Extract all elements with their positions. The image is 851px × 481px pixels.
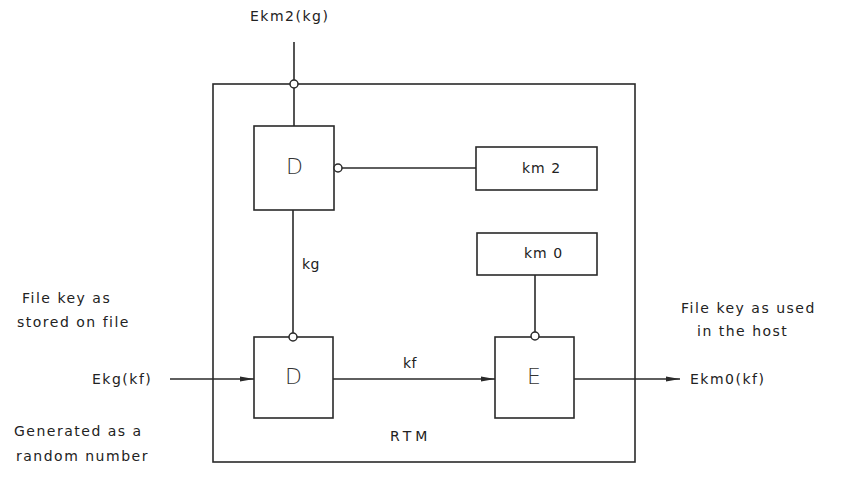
kf-signal-label: kf [403, 355, 417, 371]
rtm-label: RTM [390, 428, 431, 444]
right-output-label: Ekm0(kf) [690, 371, 765, 387]
left-note-below-line2: random number [16, 448, 149, 464]
kg-signal-label: kg [302, 256, 320, 272]
decrypt-bottom-label: D [285, 364, 302, 389]
key-port-circle-d-bottom [289, 333, 297, 341]
right-note-line1: File key as used [681, 300, 816, 316]
key-port-circle-e [531, 332, 539, 340]
diagram-canvas [0, 0, 851, 481]
junction-circle-top [290, 80, 298, 88]
rtm-container-box [213, 84, 635, 462]
decrypt-top-label: D [286, 154, 303, 179]
left-note-below-line1: Generated as a [14, 423, 143, 439]
top-input-label: Ekm2(kg) [250, 8, 329, 24]
key-port-circle-d-top [334, 164, 342, 172]
right-note-line2: in the host [697, 323, 788, 339]
left-input-label: Ekg(kf) [92, 371, 152, 387]
key-km2-label: km 2 [522, 160, 561, 176]
key-km0-label: km 0 [524, 245, 563, 261]
left-note-above-line1: File key as [22, 290, 111, 306]
encrypt-label: E [527, 364, 541, 389]
left-note-above-line2: stored on file [17, 314, 130, 330]
